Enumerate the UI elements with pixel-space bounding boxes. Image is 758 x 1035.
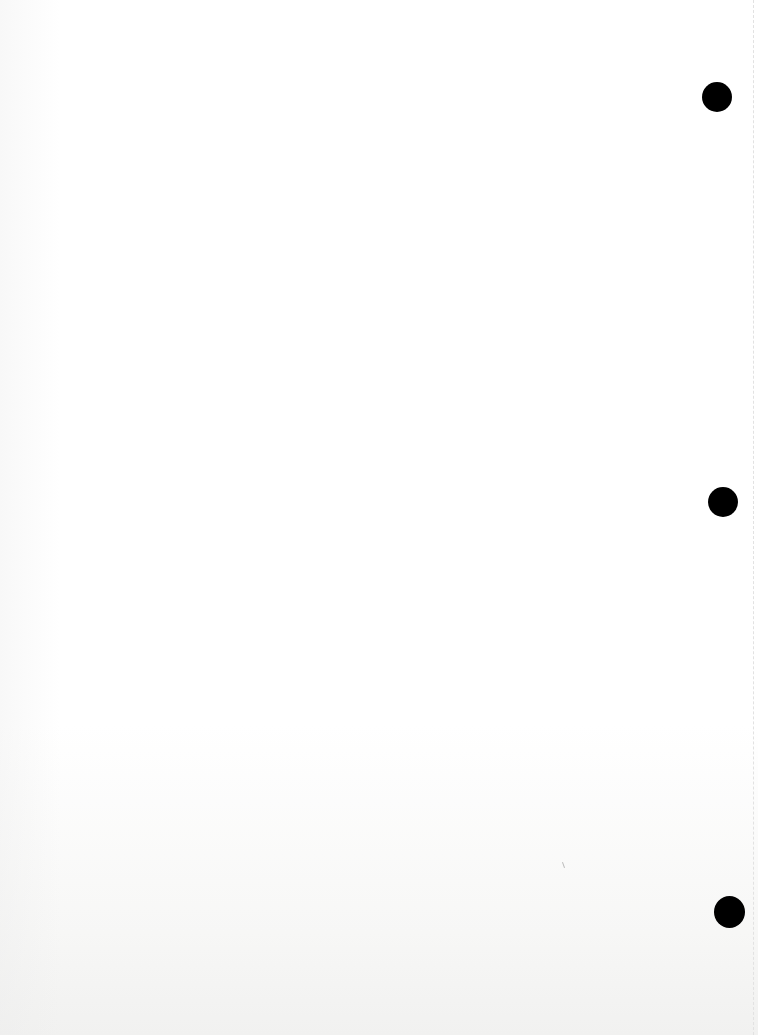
page-edge-line: [753, 0, 754, 1035]
punch-hole-bottom: [714, 896, 745, 928]
punch-hole-top: [702, 82, 732, 112]
scan-shading: [0, 0, 60, 1035]
punch-hole-middle: [708, 487, 738, 517]
scanned-page: [0, 0, 758, 1035]
stray-mark: [562, 862, 565, 868]
